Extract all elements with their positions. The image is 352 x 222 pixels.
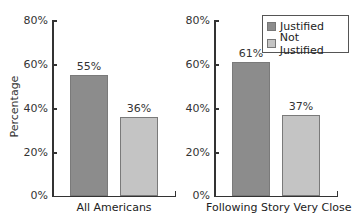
left-tick-label-0: 0% (14, 190, 48, 202)
right-tick-label-40: 40% (176, 103, 210, 115)
left-tick-label-40: 40% (14, 103, 48, 115)
bar-all-americans-not-justified (120, 117, 158, 196)
value-label-all-americans-justified: 55% (70, 61, 108, 73)
right-tick-label-80: 80% (176, 15, 210, 27)
left-tick-20 (52, 152, 57, 154)
bar-following-closely-justified (232, 62, 270, 196)
value-label-all-americans-not-justified: 36% (120, 103, 158, 115)
category-label-all-americans: All Americans (52, 202, 176, 214)
right-x-axis-endtick (337, 191, 339, 196)
legend-swatch-justified (267, 22, 276, 31)
bar-all-americans-justified (70, 75, 108, 196)
right-tick-40 (214, 108, 219, 110)
right-tick-label-60: 60% (176, 59, 210, 71)
right-tick-label-20: 20% (176, 147, 210, 159)
left-tick-label-20: 20% (14, 147, 48, 159)
right-tick-label-0: 0% (176, 190, 210, 202)
legend-label-not-justified: Not Justified (280, 31, 344, 57)
left-tick-label-80: 80% (14, 15, 48, 27)
value-label-following-closely-not-justified: 37% (282, 101, 320, 113)
left-tick-60 (52, 64, 57, 66)
right-tick-80 (214, 20, 219, 22)
category-label-following-story-very-closely: Following Story Very Closely (206, 202, 346, 214)
legend-swatch-not-justified (267, 39, 276, 48)
left-tick-label-60: 60% (14, 59, 48, 71)
legend: Justified Not Justified (262, 15, 349, 53)
right-tick-20 (214, 152, 219, 154)
bar-following-closely-not-justified (282, 115, 320, 196)
legend-item-not-justified: Not Justified (267, 35, 344, 52)
left-tick-80 (52, 20, 57, 22)
right-tick-60 (214, 64, 219, 66)
left-tick-40 (52, 108, 57, 110)
